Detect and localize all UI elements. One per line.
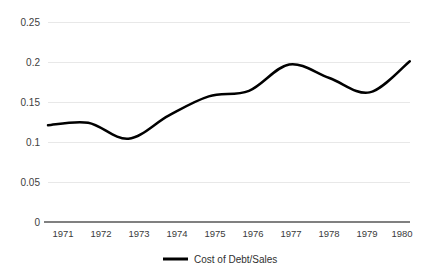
legend: Cost of Debt/Sales (163, 254, 277, 265)
y-tick-label-0.2: 0.2 (26, 57, 40, 68)
x-tick-label-1980: 1980 (391, 228, 412, 239)
x-tick-label-1974: 1974 (166, 228, 187, 239)
y-tick-label-0.1: 0.1 (26, 137, 40, 148)
x-tick-label-1972: 1972 (90, 228, 111, 239)
chart-canvas: 0.25 0.2 0.15 0.1 0.05 0 1971 1972 1973 … (0, 0, 424, 277)
line-chart: 0.25 0.2 0.15 0.1 0.05 0 1971 1972 1973 … (0, 0, 424, 277)
x-tick-label-1976: 1976 (242, 228, 263, 239)
x-tick-label-1973: 1973 (128, 228, 149, 239)
x-tick-label-1971: 1971 (52, 228, 73, 239)
x-tick-label-1978: 1978 (318, 228, 339, 239)
y-tick-label-0.05: 0.05 (21, 177, 41, 188)
gridlines-group (48, 22, 410, 182)
y-axis-tick-labels: 0.25 0.2 0.15 0.1 0.05 0 (21, 17, 41, 228)
y-tick-label-0: 0 (34, 217, 40, 228)
legend-entry-label: Cost of Debt/Sales (194, 254, 277, 265)
y-tick-label-0.25: 0.25 (21, 17, 41, 28)
x-tick-label-1979: 1979 (356, 228, 377, 239)
x-tick-label-1975: 1975 (204, 228, 225, 239)
x-tick-label-1977: 1977 (280, 228, 301, 239)
y-tick-label-0.15: 0.15 (21, 97, 41, 108)
x-axis-tick-labels: 1971 1972 1973 1974 1975 1976 1977 1978 … (52, 228, 412, 239)
series-line-path (48, 61, 410, 139)
series-cost-of-debt-sales (48, 61, 410, 139)
